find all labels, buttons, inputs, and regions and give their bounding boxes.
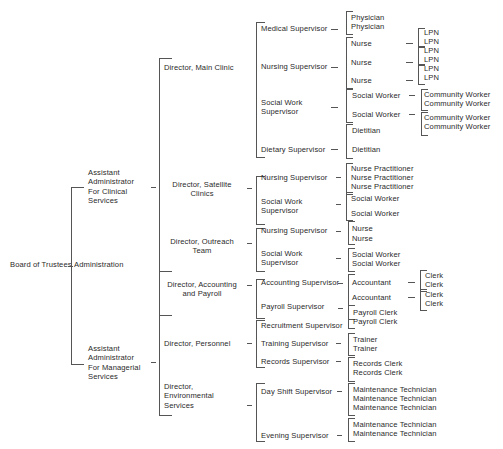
node-community-worker: Community Worker xyxy=(424,113,490,122)
node-social-worker: Social Worker xyxy=(352,259,400,268)
node-nurse: Nurse xyxy=(352,234,373,243)
node-director-main-clinic: Director, Main Clinic xyxy=(164,63,234,72)
node-lpn: LPN xyxy=(424,28,439,37)
node-lpn: LPN xyxy=(424,73,439,82)
node-director-environmental: Director,EnvironmentalServices xyxy=(164,382,214,410)
connector xyxy=(151,362,156,363)
node-records-supervisor: Records Supervisor xyxy=(261,357,329,366)
connector xyxy=(406,43,413,44)
connector xyxy=(406,80,413,81)
node-accounting-supervisor: Accounting Supervisor xyxy=(261,278,339,287)
connector xyxy=(409,95,415,96)
connector xyxy=(409,114,415,115)
node-lpn: LPN xyxy=(424,55,439,64)
connector xyxy=(338,308,343,309)
node-dietary-supervisor: Dietary Supervisor xyxy=(261,145,325,154)
node-medical-supervisor: Medical Supervisor xyxy=(261,24,327,33)
node-maintenance-technician: Maintenance Technician xyxy=(353,394,437,403)
connector xyxy=(331,149,338,150)
node-payroll-clerk: Payroll Clerk xyxy=(353,308,397,317)
connector xyxy=(247,343,252,344)
node-nurse: Nurse xyxy=(351,58,372,67)
connector xyxy=(408,297,415,298)
node-nurse-practitioner: Nurse Practitioner xyxy=(351,182,414,191)
connector-bracket xyxy=(71,187,84,365)
connector xyxy=(247,285,252,286)
connector xyxy=(336,258,341,259)
node-social-work-supervisor: Social WorkSupervisor xyxy=(261,98,302,117)
node-director-outreach: Director, OutreachTeam xyxy=(164,237,240,256)
node-nurse-practitioner: Nurse Practitioner xyxy=(351,164,414,173)
node-social-worker: Social Worker xyxy=(352,91,400,100)
connector xyxy=(337,435,342,436)
node-physician: Physician xyxy=(351,22,384,31)
connector-bracket xyxy=(256,22,265,158)
node-board-of-trustees: Board of Trustees xyxy=(10,260,72,269)
node-nurse: Nurse xyxy=(351,76,372,85)
node-records-clerk: Records Clerk xyxy=(353,368,402,377)
node-clerk: Clerk xyxy=(425,271,443,280)
node-social-worker: Social Worker xyxy=(351,194,399,203)
connector xyxy=(336,177,341,178)
node-payroll-supervisor: Payroll Supervisor xyxy=(261,302,324,311)
node-accountant: Accountant xyxy=(352,293,391,302)
node-nursing-supervisor: Nursing Supervisor xyxy=(261,226,327,235)
node-social-worker: Social Worker xyxy=(351,209,399,218)
connector xyxy=(338,283,343,284)
connector xyxy=(336,343,341,344)
node-trainer: Trainer xyxy=(353,344,377,353)
node-director-personnel: Director, Personnel xyxy=(164,339,230,348)
node-records-clerk: Records Clerk xyxy=(353,359,402,368)
connector xyxy=(247,188,252,189)
node-maintenance-technician: Maintenance Technician xyxy=(353,385,437,394)
node-maintenance-technician: Maintenance Technician xyxy=(353,403,437,412)
node-trainer: Trainer xyxy=(353,335,377,344)
connector xyxy=(331,29,338,30)
connector xyxy=(247,243,252,244)
node-accountant: Accountant xyxy=(352,278,391,287)
node-director-accounting-payroll: Director, Accountingand Payroll xyxy=(164,280,240,299)
node-physician: Physician xyxy=(351,13,384,22)
node-maintenance-technician: Maintenance Technician xyxy=(353,429,437,438)
connector xyxy=(336,204,341,205)
node-dietitian: Dietitian xyxy=(352,126,380,135)
node-nurse: Nurse xyxy=(352,224,373,233)
connector xyxy=(331,107,338,108)
connector xyxy=(408,282,415,283)
node-social-work-supervisor: Social WorkSupervisor xyxy=(261,249,302,268)
node-nursing-supervisor: Nursing Supervisor xyxy=(261,173,327,182)
node-community-worker: Community Worker xyxy=(424,90,490,99)
node-community-worker: Community Worker xyxy=(424,122,490,131)
node-dietitian: Dietitian xyxy=(352,145,380,154)
node-social-worker: Social Worker xyxy=(352,110,400,119)
node-lpn: LPN xyxy=(424,37,439,46)
node-lpn: LPN xyxy=(424,64,439,73)
node-maintenance-technician: Maintenance Technician xyxy=(353,420,437,429)
node-clerk: Clerk xyxy=(425,290,443,299)
connector xyxy=(406,62,413,63)
node-evening-supervisor: Evening Supervisor xyxy=(261,431,329,440)
node-nurse-practitioner: Nurse Practitioner xyxy=(351,173,414,182)
node-lpn: LPN xyxy=(424,46,439,55)
connector xyxy=(151,187,156,188)
node-training-supervisor: Training Supervisor xyxy=(261,339,328,348)
node-social-work-supervisor: Social WorkSupervisor xyxy=(261,197,302,216)
node-community-worker: Community Worker xyxy=(424,99,490,108)
node-clerk: Clerk xyxy=(425,280,443,289)
connector xyxy=(336,361,341,362)
connector xyxy=(336,231,341,232)
connector xyxy=(247,405,252,406)
node-asst-admin-clinical: AssistantAdministrator For ClinicalServi… xyxy=(88,168,134,206)
node-payroll-clerk: Payroll Clerk xyxy=(353,317,397,326)
connector xyxy=(337,391,342,392)
node-nurse: Nurse xyxy=(351,39,372,48)
connector xyxy=(331,67,338,68)
node-social-worker: Social Worker xyxy=(352,250,400,259)
node-recruitment-supervisor: Recruitment Supervisor xyxy=(261,321,343,330)
node-asst-admin-managerial: AssistantAdministrator For ManagerialSer… xyxy=(88,344,140,382)
node-director-satellite-clinics: Director, SatelliteClinics xyxy=(164,180,240,199)
node-nursing-supervisor: Nursing Supervisor xyxy=(261,62,327,71)
node-day-shift-supervisor: Day Shift Supervisor xyxy=(261,387,332,396)
node-clerk: Clerk xyxy=(425,299,443,308)
